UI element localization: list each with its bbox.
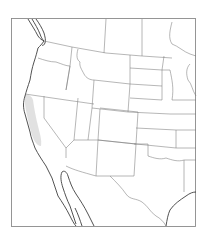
map-frame bbox=[12, 19, 196, 227]
map bbox=[0, 0, 211, 249]
